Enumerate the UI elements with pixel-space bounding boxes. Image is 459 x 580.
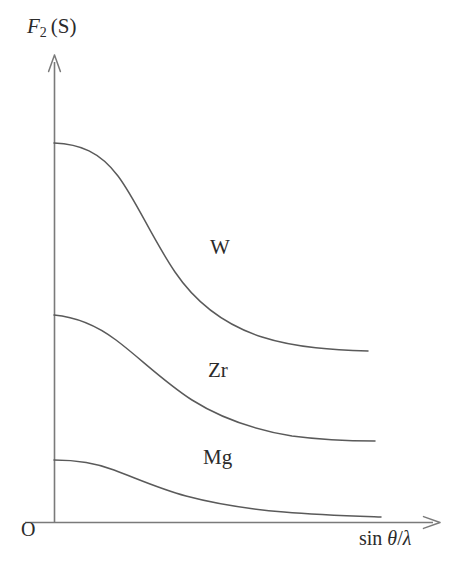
curve-label-mg: Mg [203, 445, 232, 470]
y-axis [49, 55, 61, 523]
x-axis-label: sin θ/λ [359, 527, 411, 550]
x-axis-label-prefix: sin [359, 527, 387, 549]
x-axis-label-lambda: λ [403, 527, 412, 549]
plot-canvas [0, 0, 459, 580]
origin-label: O [21, 518, 35, 541]
y-axis-label-subscript: 2 [40, 25, 47, 40]
x-axis-label-theta: θ [387, 527, 397, 549]
curve-label-zr: Zr [208, 358, 228, 383]
y-axis-label-argument: (S) [51, 14, 77, 38]
figure-container: F2(S) sin θ/λ O W Zr Mg [0, 0, 459, 580]
curve-label-w: W [210, 235, 230, 260]
y-axis-label-symbol: F [27, 14, 40, 38]
y-axis-label: F2(S) [27, 14, 77, 41]
